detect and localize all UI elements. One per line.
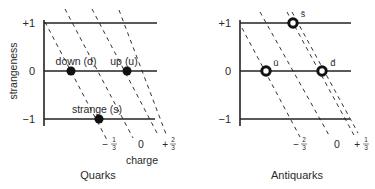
- svg-text:3: 3: [302, 144, 306, 151]
- quarks-title: Quarks: [80, 169, 116, 181]
- svg-text:3: 3: [112, 144, 116, 151]
- anti-up-label: ū: [273, 57, 278, 68]
- charge-tick-plus-two-thirds: + 2 3: [162, 136, 176, 151]
- charge-tick-zero: 0: [334, 138, 340, 150]
- quarks-panel: +1 0 −1 strangeness down (d) up (u) stra…: [7, 9, 176, 181]
- antiquarks-title: Antiquarks: [271, 169, 323, 181]
- svg-text:−: −: [293, 139, 299, 150]
- charge-line-extra: [242, 28, 300, 137]
- x-axis-label: charge: [126, 154, 158, 166]
- anti-down-dot: [318, 67, 326, 75]
- charge-tick-minus-two-thirds: − 2 3: [293, 136, 307, 151]
- svg-text:3: 3: [364, 144, 368, 151]
- down-quark-label: down (d): [56, 55, 97, 67]
- svg-text:1: 1: [112, 136, 116, 143]
- anti-strange-label: s̄: [301, 9, 306, 19]
- down-quark-dot: [67, 67, 76, 76]
- y-tick-minus1: −1: [22, 113, 35, 125]
- charge-tick-plus-third: + 1 3: [354, 136, 369, 151]
- anti-strange-dot: [289, 19, 297, 27]
- y-tick-minus1: −1: [218, 113, 231, 125]
- strange-quark-dot: [95, 115, 104, 124]
- y-tick-plus1: +1: [22, 17, 35, 29]
- anti-up-dot: [262, 67, 270, 75]
- up-quark-dot: [123, 67, 132, 76]
- y-tick-plus1: +1: [218, 17, 231, 29]
- svg-text:+: +: [162, 139, 168, 150]
- svg-text:2: 2: [171, 136, 175, 143]
- anti-down-label: d̄: [330, 57, 335, 68]
- charge-tick-zero: 0: [138, 138, 144, 150]
- svg-text:−: −: [102, 139, 108, 150]
- svg-text:+: +: [354, 139, 360, 150]
- y-tick-0: 0: [225, 65, 231, 77]
- strange-quark-label: strange (s): [72, 103, 122, 115]
- antiquarks-panel: +1 0 −1 s̄ ū d̄ − 2 3 0 + 1 3 Antiquark…: [218, 9, 369, 181]
- quark-diagram: +1 0 −1 strangeness down (d) up (u) stra…: [0, 0, 375, 189]
- y-tick-0: 0: [29, 65, 35, 77]
- svg-text:3: 3: [171, 144, 175, 151]
- svg-text:1: 1: [364, 136, 368, 143]
- svg-text:2: 2: [302, 136, 306, 143]
- y-axis-label: strangeness: [7, 42, 19, 99]
- up-quark-label: up (u): [110, 55, 137, 67]
- charge-tick-minus-third: − 1 3: [102, 136, 117, 151]
